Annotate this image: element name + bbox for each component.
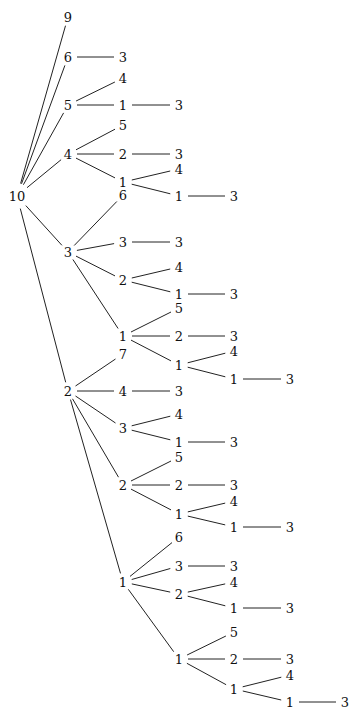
- tree-node: 2: [230, 652, 238, 667]
- tree-node: 2: [175, 587, 183, 602]
- tree-node: 5: [119, 118, 127, 133]
- tree-edge: [76, 158, 115, 178]
- tree-node: 1: [286, 695, 294, 709]
- tree-edge: [132, 430, 171, 440]
- tree-node: 1: [230, 601, 238, 616]
- tree-node: 1: [175, 358, 183, 373]
- tree-node: 1: [230, 682, 238, 697]
- tree-node: 5: [175, 301, 183, 316]
- tree-edge: [73, 399, 119, 477]
- tree-node: 4: [175, 260, 183, 275]
- tree-edge: [188, 367, 226, 377]
- tree-edge: [188, 353, 226, 363]
- tree-node: 1: [175, 507, 183, 522]
- tree-node: 1: [230, 520, 238, 535]
- tree-node: 4: [230, 494, 238, 509]
- tree-edge: [132, 584, 170, 592]
- tree-node: 3: [175, 98, 183, 113]
- tree-edge: [188, 584, 225, 592]
- tree-node: 3: [175, 384, 183, 399]
- tree-node: 3: [286, 520, 294, 535]
- tree-edge: [27, 160, 61, 188]
- tree-edge: [130, 543, 172, 577]
- tree-node: 3: [286, 601, 294, 616]
- tree-node: 3: [230, 287, 238, 302]
- tree-node: 2: [119, 478, 127, 493]
- tree-edge: [187, 663, 226, 684]
- tree-edge: [73, 260, 118, 329]
- tree-node: 3: [286, 372, 294, 387]
- tree-node: 3: [119, 421, 127, 436]
- tree-edge: [243, 691, 281, 700]
- tree-node: 3: [230, 435, 238, 450]
- tree-edge: [26, 206, 62, 246]
- tree-node: 6: [119, 188, 127, 203]
- tree-edge: [188, 516, 225, 525]
- tree-edge: [131, 461, 171, 481]
- tree-edge: [76, 359, 116, 386]
- tree-node: 2: [175, 329, 183, 344]
- tree-edge: [132, 171, 170, 180]
- tree-node: 1: [175, 287, 183, 302]
- tree-edge: [76, 129, 115, 150]
- tree-node: 2: [64, 384, 72, 399]
- tree-node: 4: [230, 575, 238, 590]
- tree-node: 3: [64, 245, 72, 260]
- tree-edge: [131, 340, 171, 361]
- tree-edge: [132, 269, 170, 278]
- tree-node: 4: [175, 407, 183, 422]
- tree-node: 3: [341, 695, 349, 709]
- tree-node: 1: [175, 189, 183, 204]
- tree-node: 3: [119, 235, 127, 250]
- tree-edge: [132, 282, 171, 292]
- tree-edge: [132, 184, 171, 194]
- tree-node: 4: [64, 147, 72, 162]
- tree-node: 3: [175, 559, 183, 574]
- tree-node: 3: [119, 50, 127, 65]
- tree-edge: [21, 26, 66, 184]
- tree-edge: [77, 244, 114, 251]
- tree-edge: [131, 489, 171, 510]
- tree-node: 1: [119, 575, 127, 590]
- tree-node: 4: [175, 162, 183, 177]
- tree-edge: [22, 65, 65, 183]
- tree-node: 1: [119, 98, 127, 113]
- tree-node: 3: [230, 478, 238, 493]
- tree-node: 4: [119, 384, 127, 399]
- tree-edge: [76, 396, 116, 423]
- tree-edge: [20, 209, 65, 383]
- tree-edge: [128, 589, 173, 651]
- tree-edge: [71, 400, 121, 574]
- tree-node: 3: [230, 189, 238, 204]
- tree-node: 6: [175, 530, 183, 545]
- tree-node: 1: [175, 435, 183, 450]
- tree-node: 2: [119, 273, 127, 288]
- tree-node: 1: [230, 372, 238, 387]
- tree-node: 4: [286, 668, 294, 683]
- tree-node: 4: [119, 71, 127, 86]
- tree-node: 5: [175, 450, 183, 465]
- tree-node: 4: [230, 344, 238, 359]
- tree-node: 5: [230, 625, 238, 640]
- tree-node: 7: [119, 347, 127, 362]
- tree-edge: [187, 636, 226, 655]
- tree-node: 6: [64, 50, 72, 65]
- tree-node: 9: [64, 10, 72, 25]
- tree-edge: [74, 202, 117, 246]
- tree-node: 2: [119, 147, 127, 162]
- tree-edge: [188, 596, 226, 606]
- tree-edge: [76, 82, 115, 101]
- tree-node: 3: [175, 235, 183, 250]
- tree-node: 3: [286, 652, 294, 667]
- tree-edge: [188, 503, 225, 512]
- tree-node: 1: [175, 652, 183, 667]
- tree-edge: [131, 312, 171, 332]
- tree-diagram: 1096354134523141336332413152314132743341…: [0, 0, 357, 709]
- tree-node: 1: [119, 329, 127, 344]
- tree-node: 2: [175, 478, 183, 493]
- tree-edge: [243, 677, 282, 687]
- tree-node: 5: [64, 98, 72, 113]
- tree-root-node: 10: [9, 189, 26, 204]
- tree-node: 3: [230, 329, 238, 344]
- tree-edge: [132, 416, 171, 426]
